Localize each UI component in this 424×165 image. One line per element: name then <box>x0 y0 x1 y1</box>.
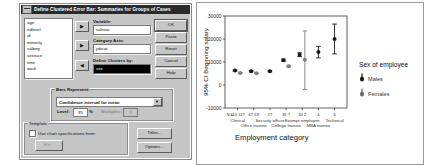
legend-label-males[interactable]: Males <box>368 76 383 82</box>
arrow-left-icon: ◀ <box>80 63 84 68</box>
data-point-marker[interactable] <box>238 71 242 75</box>
list-item[interactable]: minority <box>27 40 70 47</box>
x-category-label: Clerical <box>230 118 245 123</box>
legend: Sex of employee Males Females <box>359 61 408 97</box>
cancel-button[interactable]: Cancel <box>155 56 187 67</box>
move-to-category-axis-button[interactable]: ▶ <box>75 40 89 51</box>
level-label: Level: <box>57 109 70 114</box>
x-axis: N =110 117Clerical67 69Office trainee27S… <box>227 108 344 128</box>
data-point-marker[interactable] <box>268 69 272 73</box>
bars-represent-group: Bars Represent Confidence interval for m… <box>51 89 173 121</box>
data-point-marker[interactable] <box>298 53 302 57</box>
category-axis-input[interactable]: jobcat <box>93 44 151 54</box>
bars-represent-value: Confidence interval for mean <box>57 100 120 105</box>
list-item[interactable]: work <box>27 66 70 73</box>
dialog-title-bar[interactable]: Define Clustered Error Bar: Summaries fo… <box>21 5 190 14</box>
percent-sign: % <box>89 109 93 114</box>
arrow-right-icon: ▶ <box>80 24 84 29</box>
legend-label-females[interactable]: Females <box>368 91 390 97</box>
data-points-layer <box>233 24 337 90</box>
error-bar-chart-panel: -100000100002000030000 N =110 117Clerica… <box>196 2 424 165</box>
template-legend: Template <box>28 121 48 126</box>
list-item[interactable]: id <box>27 33 70 40</box>
x-category-label: Technical <box>325 118 343 123</box>
y-tick-label: 0 <box>219 82 222 88</box>
paste-button[interactable]: Paste <box>155 32 187 43</box>
n-label: 4 <box>317 112 320 117</box>
data-point-marker[interactable] <box>281 58 285 62</box>
legend-title: Sex of employee <box>359 61 408 69</box>
legend-bar-males <box>361 74 362 79</box>
plot-area-frame <box>225 16 347 108</box>
list-item[interactable]: time <box>27 60 70 67</box>
options-button[interactable]: Options... <box>137 142 172 153</box>
variable-list[interactable]: age edlevel id minority salbeg sexrace t… <box>24 18 73 79</box>
data-point-marker[interactable] <box>233 69 237 73</box>
x-category-label: MBA trainee <box>306 123 330 128</box>
legend-bar-females <box>361 89 362 94</box>
data-point-marker[interactable] <box>287 64 291 68</box>
n-label: 36 7 <box>282 112 291 117</box>
variable-field-group: Variable: salnow <box>93 19 151 35</box>
n-label: 110 117 <box>230 112 245 117</box>
x-category-label: Exempt employee <box>285 118 321 123</box>
template-group: Template Use chart specifications from: … <box>24 123 128 155</box>
chevron-down-icon[interactable]: ▼ <box>153 98 162 107</box>
reset-button[interactable]: Reset <box>155 44 187 55</box>
multiplier-input: 2 <box>123 108 138 117</box>
titles-button[interactable]: Titles... <box>137 128 172 139</box>
x-axis-title: Employment category <box>235 133 309 142</box>
multiplier-label: Multiplier: <box>101 109 122 114</box>
data-point-marker[interactable] <box>254 71 258 75</box>
data-point-marker[interactable] <box>333 37 337 41</box>
bars-represent-legend: Bars Represent <box>55 87 89 92</box>
level-input[interactable]: 95 <box>73 108 88 117</box>
category-axis-field-group: Category Axis: jobcat <box>93 38 151 54</box>
list-item[interactable]: salbeg <box>27 46 70 53</box>
x-category-label: Office trainee <box>241 123 268 128</box>
system-menu-icon[interactable] <box>22 5 32 14</box>
x-category-label: College trainee <box>271 123 301 128</box>
define-clusters-input[interactable]: sex <box>93 64 151 74</box>
list-item[interactable]: sexrace <box>27 53 70 60</box>
y-axis-title: 95% CI Beginning salary <box>202 27 209 96</box>
move-to-clusters-button[interactable]: ◀ <box>75 60 89 71</box>
checkbox-box-icon[interactable] <box>29 130 36 137</box>
data-point-marker[interactable] <box>303 58 307 62</box>
error-bar-chart: -100000100002000030000 N =110 117Clerica… <box>197 3 423 164</box>
list-item[interactable]: edlevel <box>27 27 70 34</box>
use-chart-specifications-label: Use chart specifications from: <box>38 131 96 136</box>
list-item[interactable]: age <box>27 20 70 27</box>
bars-represent-dropdown[interactable]: Confidence interval for mean ▼ <box>56 97 163 107</box>
arrow-right-icon: ▶ <box>80 43 84 48</box>
y-tick-label: -10000 <box>206 105 222 111</box>
define-clustered-error-bar-dialog: Define Clustered Error Bar: Summaries fo… <box>19 3 192 160</box>
define-clusters-field-group: Define Clusters by: sex <box>93 58 151 74</box>
ok-button[interactable]: OK <box>155 20 187 31</box>
use-chart-specifications-checkbox[interactable]: Use chart specifications from: <box>29 130 96 137</box>
y-tick-label: 30000 <box>208 13 222 19</box>
file-button: File... <box>35 140 63 151</box>
variable-input[interactable]: salnow <box>93 25 151 35</box>
y-tick-label: 10000 <box>208 59 222 65</box>
help-button[interactable]: Help <box>155 68 187 79</box>
n-label: 67 69 <box>249 112 260 117</box>
move-to-variable-button[interactable]: ▶ <box>75 21 89 32</box>
define-clusters-value: sex <box>96 66 103 71</box>
data-point-marker[interactable] <box>316 50 320 54</box>
y-tick-label: 20000 <box>208 36 222 42</box>
n-label: 30 2 <box>298 112 307 117</box>
dialog-title: Define Clustered Error Bar: Summaries fo… <box>34 5 171 14</box>
n-label: 27 <box>268 112 273 117</box>
n-label: 6 <box>333 112 336 117</box>
data-point-marker[interactable] <box>249 69 253 73</box>
x-category-label: Security officer <box>255 118 284 123</box>
